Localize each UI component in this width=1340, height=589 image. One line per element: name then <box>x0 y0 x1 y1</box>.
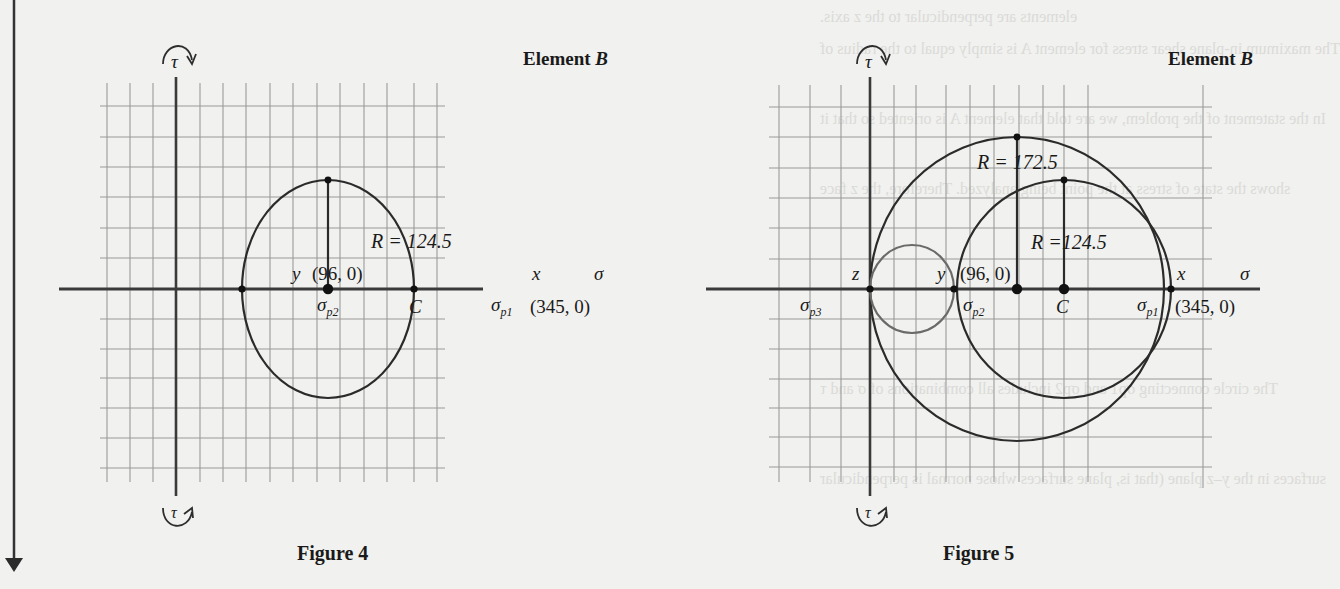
sigma-p3-sub: p3 <box>809 305 821 319</box>
element-label: Element B <box>1168 49 1253 68</box>
tau-rotation-arrow-top-icon <box>857 46 890 64</box>
tau-rotation-arrow-bottom-icon <box>857 508 887 526</box>
margin-arrow <box>5 0 23 572</box>
sigma-p1-symbol: σ <box>1137 294 1146 315</box>
figure-5-axes <box>706 77 1260 496</box>
figure-4-grid <box>100 83 445 482</box>
sigma-p2-symbol: σ <box>963 294 972 315</box>
center-label: C <box>409 297 422 316</box>
point-x-coord: (345, 0) <box>1175 297 1235 316</box>
point-y-letter: y <box>937 264 945 283</box>
point-z-letter: z <box>852 264 859 283</box>
element-label-text: Element <box>1168 48 1240 69</box>
tau-rotation-arrow-bottom-icon <box>163 508 193 526</box>
tau-label-bottom: τ <box>171 505 177 521</box>
figure-4-axes <box>59 77 483 496</box>
center-label: C <box>1056 297 1069 316</box>
figure-5-grid <box>769 85 1212 488</box>
sigma-p2-label: σp2 <box>963 295 984 314</box>
point-y-letter: y <box>292 264 300 283</box>
figure-caption: Figure 4 <box>297 543 368 563</box>
point-x-letter: x <box>532 264 540 283</box>
sigma-p1-sub: p1 <box>500 305 512 319</box>
point-y-coord: (96, 0) <box>960 264 1011 283</box>
element-label-var: B <box>595 48 608 69</box>
sigma-p2-symbol: σ <box>317 294 326 315</box>
element-label: Element B <box>523 49 608 68</box>
tau-label-bottom: τ <box>865 505 871 521</box>
sigma-p1-symbol: σ <box>491 294 500 315</box>
radius-large-label: R = 172.5 <box>977 152 1058 172</box>
sigma-p3-symbol: σ <box>800 294 809 315</box>
sigma-p2-sub: p2 <box>326 305 338 319</box>
sigma-p1-label: σp1 <box>1137 295 1158 314</box>
sigma-p2-label: σp2 <box>317 295 338 314</box>
point-x-coord: (345, 0) <box>530 297 590 316</box>
radius-label: R = 124.5 <box>371 231 452 251</box>
element-label-text: Element <box>523 48 595 69</box>
radius-small-label: R =124.5 <box>1031 232 1107 252</box>
sigma-p1-sub: p1 <box>1146 305 1158 319</box>
tau-label-top: τ <box>171 52 178 71</box>
sigma-p2-sub: p2 <box>972 305 984 319</box>
element-label-var: B <box>1240 48 1253 69</box>
radius-small-label-text: R =124.5 <box>1031 231 1107 253</box>
point-y-coord: (96, 0) <box>312 264 363 283</box>
point-x-letter: x <box>1177 264 1185 283</box>
sigma-axis-label: σ <box>594 264 603 283</box>
tau-label-top: τ <box>865 52 872 71</box>
radius-label-text: R = 124.5 <box>371 230 452 252</box>
radius-large-label-text: R = 172.5 <box>977 151 1058 173</box>
sigma-p3-label: σp3 <box>800 295 821 314</box>
sigma-axis-label: σ <box>1240 264 1249 283</box>
sigma-p1-label: σp1 <box>491 295 512 314</box>
figure-caption: Figure 5 <box>943 543 1014 563</box>
tau-rotation-arrow-top-icon <box>163 46 196 64</box>
